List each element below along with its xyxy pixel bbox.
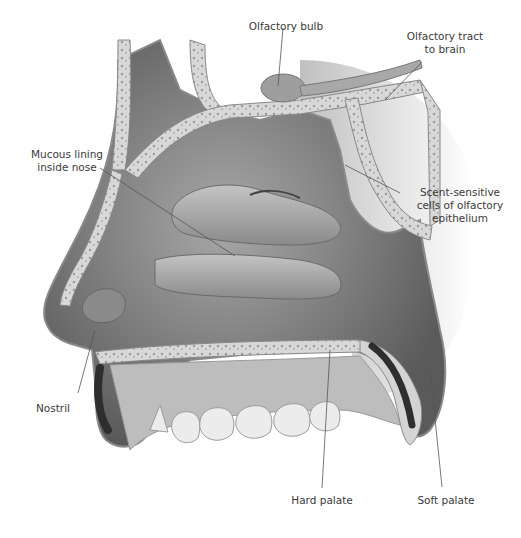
frontal-bone: [112, 40, 131, 170]
label-nostril: Nostril: [36, 402, 70, 415]
label-text: Olfactory tract: [395, 30, 495, 43]
label-text: cells of olfactory: [410, 199, 510, 212]
label-scent-cells: Scent-sensitive cells of olfactory epith…: [410, 186, 510, 225]
label-text: Mucous lining: [22, 148, 112, 161]
label-text: Soft palate: [417, 494, 474, 506]
label-text: Hard palate: [291, 494, 353, 506]
label-text: inside nose: [22, 161, 112, 174]
nasal-anatomy-figure: Olfactory bulb Olfactory tract to brain …: [0, 0, 521, 538]
label-text: Nostril: [36, 402, 70, 414]
label-olfactory-bulb: Olfactory bulb: [246, 20, 326, 33]
label-text: Scent-sensitive: [410, 186, 510, 199]
anatomy-illustration: [0, 0, 521, 538]
label-mucous-lining: Mucous lining inside nose: [22, 148, 112, 174]
olfactory-bulb-shape: [261, 74, 305, 102]
label-text: to brain: [395, 43, 495, 56]
label-olfactory-tract: Olfactory tract to brain: [395, 30, 495, 56]
label-hard-palate: Hard palate: [282, 494, 362, 507]
label-text: Olfactory bulb: [249, 20, 323, 32]
label-soft-palate: Soft palate: [410, 494, 482, 507]
label-text: epithelium: [410, 212, 510, 225]
